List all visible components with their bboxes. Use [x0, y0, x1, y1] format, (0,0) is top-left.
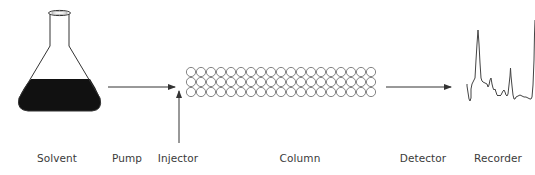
column-bead: [246, 67, 255, 76]
column-bead: [306, 77, 315, 86]
solvent-flask-icon: [18, 10, 100, 111]
column-bead: [186, 87, 195, 96]
column-bead: [266, 87, 275, 96]
hplc-diagram: [0, 0, 535, 175]
column-bead: [186, 77, 195, 86]
column-bead: [226, 67, 235, 76]
label-detector: Detector: [400, 152, 447, 164]
column-bead: [226, 87, 235, 96]
column-bead: [266, 77, 275, 86]
column-bead: [216, 77, 225, 86]
column-bead: [316, 77, 325, 86]
column-bead: [306, 67, 315, 76]
column-bead: [346, 67, 355, 76]
column-bead: [366, 77, 375, 86]
column-bead: [336, 67, 345, 76]
column-bead: [346, 87, 355, 96]
column-bead: [336, 77, 345, 86]
column-bead: [356, 87, 365, 96]
column-bead: [216, 87, 225, 96]
label-recorder: Recorder: [474, 152, 522, 164]
column-bead: [276, 87, 285, 96]
recorder-chromatogram-icon: [467, 20, 535, 101]
column-bead: [356, 67, 365, 76]
label-pump: Pump: [112, 152, 142, 164]
column-bead: [236, 67, 245, 76]
column-bead: [256, 67, 265, 76]
column-bead: [246, 77, 255, 86]
column-bead: [186, 67, 195, 76]
column-bead: [206, 87, 215, 96]
column-bead: [286, 77, 295, 86]
column-bead: [336, 87, 345, 96]
column-bead: [326, 67, 335, 76]
label-injector: Injector: [158, 152, 199, 164]
column-bead: [196, 87, 205, 96]
column-bead: [256, 87, 265, 96]
column-bead: [206, 67, 215, 76]
column-bead: [276, 77, 285, 86]
column-bead: [326, 87, 335, 96]
column-bead: [366, 67, 375, 76]
column-bead: [236, 87, 245, 96]
column-bead: [306, 87, 315, 96]
column-bead: [296, 87, 305, 96]
column-bead: [226, 77, 235, 86]
column-bead: [316, 67, 325, 76]
column-bead: [356, 77, 365, 86]
label-solvent: Solvent: [37, 152, 77, 164]
column-bead: [196, 67, 205, 76]
column-bead: [296, 77, 305, 86]
column-bead: [196, 77, 205, 86]
chromatogram-trace: [467, 20, 535, 101]
column-bead: [286, 67, 295, 76]
column-bead: [216, 67, 225, 76]
column-bead: [346, 77, 355, 86]
solvent-liquid: [18, 79, 100, 111]
column-bead: [206, 77, 215, 86]
column-bead: [276, 67, 285, 76]
label-column: Column: [280, 152, 321, 164]
column-bead: [286, 87, 295, 96]
column-bead: [296, 67, 305, 76]
column-bead: [256, 77, 265, 86]
column-bead: [366, 87, 375, 96]
column-bead: [326, 77, 335, 86]
column-packing: [186, 67, 375, 96]
column-bead: [266, 67, 275, 76]
column-bead: [246, 87, 255, 96]
column-bead: [316, 87, 325, 96]
column-bead: [236, 77, 245, 86]
